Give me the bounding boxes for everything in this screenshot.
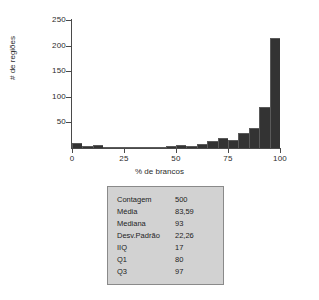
y-tick-label: 250 (52, 16, 66, 24)
stats-label: Desv.Padrão (117, 230, 175, 242)
stats-value: 80 (175, 254, 183, 266)
histogram-bar (82, 146, 92, 148)
histogram-bar (218, 138, 228, 148)
x-axis-title: % de brancos (0, 168, 319, 176)
histogram-bar (134, 147, 144, 148)
histogram-bar (103, 147, 113, 148)
histogram-bar (72, 143, 82, 148)
x-tick-label: 25 (109, 155, 139, 163)
stats-label: Q1 (117, 254, 175, 266)
stats-value: 97 (175, 266, 183, 278)
stats-value: 22,26 (175, 230, 194, 242)
x-tick-label: 0 (57, 155, 87, 163)
histogram-bar (114, 147, 124, 148)
stats-label: Contagem (117, 194, 175, 206)
histogram-bar (124, 147, 134, 148)
x-tick-mark (228, 148, 229, 153)
histogram-bar (93, 145, 103, 148)
histogram-bar (186, 146, 196, 148)
histogram-figure: 50100150200250 0255075100 # de regiões %… (0, 0, 319, 300)
stats-value: 93 (175, 218, 183, 230)
stats-value: 83,59 (175, 206, 194, 218)
chart-area: 50100150200250 0255075100 # de regiões %… (0, 0, 319, 180)
histogram-bar (249, 128, 259, 148)
y-axis-title: # de regiões (9, 8, 17, 108)
x-tick-mark (124, 148, 125, 153)
statistics-table: Contagem500Média83,59Mediana93Desv.Padrã… (107, 186, 224, 285)
stats-row: Contagem500 (117, 194, 223, 206)
histogram-bar (207, 141, 217, 148)
histogram-bar (228, 140, 238, 148)
x-tick-label: 50 (161, 155, 191, 163)
y-tick-label: 200 (52, 42, 66, 50)
stats-row: IIQ17 (117, 242, 223, 254)
stats-row: Q180 (117, 254, 223, 266)
histogram-bar (259, 107, 269, 148)
histogram-bar (155, 147, 165, 148)
histogram-bar (166, 146, 176, 148)
stats-row: Desv.Padrão22,26 (117, 230, 223, 242)
y-tick-label: 150 (52, 67, 66, 75)
stats-value: 17 (175, 242, 183, 254)
plot-bars (72, 20, 280, 148)
y-tick-label: 50 (57, 118, 66, 126)
x-tick-label: 100 (265, 155, 295, 163)
stats-row: Mediana93 (117, 218, 223, 230)
stats-label: Q3 (117, 266, 175, 278)
histogram-bar (270, 38, 280, 148)
stats-label: IIQ (117, 242, 175, 254)
stats-value: 500 (175, 194, 188, 206)
x-tick-mark (280, 148, 281, 153)
histogram-bar (197, 144, 207, 148)
x-tick-mark (72, 148, 73, 153)
y-tick-label: 100 (52, 93, 66, 101)
x-tick-label: 75 (213, 155, 243, 163)
histogram-bar (176, 145, 186, 148)
stats-label: Mediana (117, 218, 175, 230)
stats-label: Média (117, 206, 175, 218)
stats-row: Média83,59 (117, 206, 223, 218)
histogram-bar (238, 133, 248, 148)
x-tick-mark (176, 148, 177, 153)
histogram-bar (145, 147, 155, 148)
stats-row: Q397 (117, 266, 223, 278)
